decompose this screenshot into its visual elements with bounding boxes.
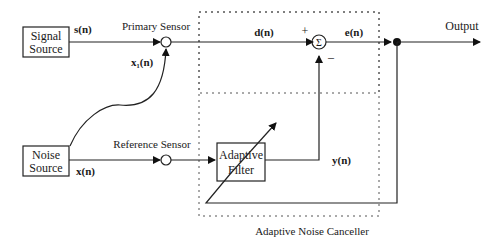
sigma-symbol: Σ bbox=[316, 37, 322, 48]
signal-e-label: e(n) bbox=[345, 26, 364, 39]
signal-x1-label: x₁(n) bbox=[131, 56, 154, 69]
primary-sensor-label: Primary Sensor bbox=[122, 20, 190, 32]
filter-output-path bbox=[265, 56, 319, 160]
canceller-boundary-top bbox=[199, 12, 379, 93]
reference-sensor-node bbox=[161, 155, 171, 165]
signal-source-label-2: Source bbox=[29, 42, 62, 56]
signal-source-block: Signal Source bbox=[23, 27, 69, 57]
error-feedback-path bbox=[206, 42, 397, 203]
noise-source-label-1: Noise bbox=[32, 148, 60, 162]
adaptive-noise-canceller-diagram: Signal Source Noise Source Adaptive Filt… bbox=[0, 0, 498, 246]
plus-sign: + bbox=[302, 24, 309, 38]
noise-source-label-2: Source bbox=[29, 161, 62, 175]
noise-source-block: Noise Source bbox=[23, 146, 69, 176]
signal-d-label: d(n) bbox=[254, 26, 274, 39]
canceller-caption: Adaptive Noise Canceller bbox=[255, 225, 369, 237]
adaptive-filter-label-1: Adaptive bbox=[219, 148, 263, 162]
signal-s-label: s(n) bbox=[74, 23, 92, 36]
signal-source-label-1: Signal bbox=[31, 29, 62, 43]
output-label: Output bbox=[445, 19, 479, 33]
primary-sensor-node bbox=[161, 37, 171, 47]
signal-y-label: y(n) bbox=[332, 154, 351, 167]
signal-x-label: x(n) bbox=[76, 165, 95, 178]
minus-sign: – bbox=[327, 50, 335, 64]
adaptive-filter-label-2: Filter bbox=[228, 163, 254, 177]
reference-sensor-label: Reference Sensor bbox=[113, 138, 191, 150]
